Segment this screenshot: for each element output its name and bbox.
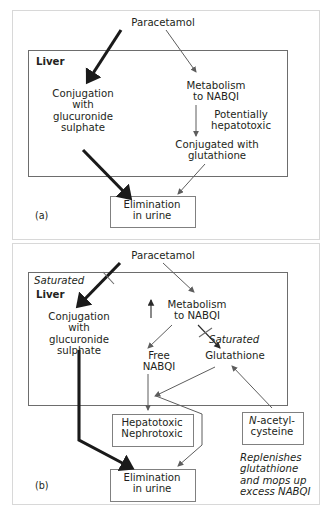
panel-a-arrow-paracetamol-to-metabolism [166, 30, 196, 72]
panel-b-arrow-glutathione-to-junction [155, 367, 215, 396]
panel-a-arrow-paracetamol-to-conjugation [90, 30, 121, 78]
panel-a-arrow-conjugation-to-elimination [83, 150, 127, 195]
panel-b-arrow-metabolism-to-free-nabqi [148, 325, 172, 348]
panel-b-arrow-metabolism-to-glutathione [198, 325, 220, 348]
arrow-layer [0, 0, 334, 515]
panel-a-arrow-conjugated-to-elimination [178, 164, 205, 194]
panel-b-arrow-conjugation-to-elimination [79, 350, 128, 466]
panel-b-arrow-toxicity-bypass-to-elimination [156, 396, 202, 466]
paracetamol-metabolism-figure: Paracetamol Liver Conjugation with glucu… [0, 0, 334, 515]
panel-b-arrow-nac-to-glutathione [232, 366, 272, 408]
panel-b-arrow-paracetamol-to-metabolism [163, 263, 194, 292]
panel-b-arrow-paracetamol-to-conjugation [81, 263, 120, 303]
